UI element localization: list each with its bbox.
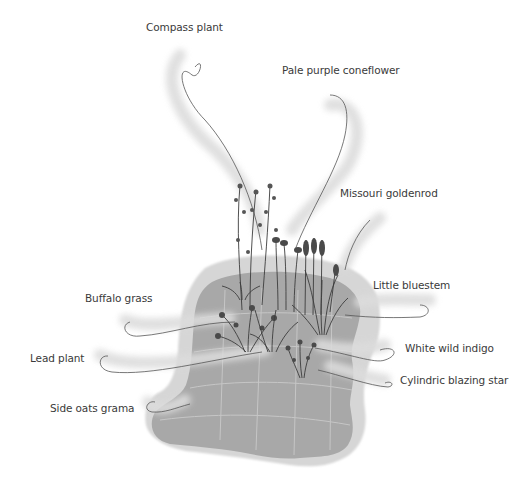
label-lead-plant: Lead plant bbox=[30, 352, 84, 364]
label-cylindric-blazing-star: Cylindric blazing star bbox=[400, 374, 508, 386]
prairie-garden-illustration: Compass plant Pale purple coneflower Mis… bbox=[0, 0, 524, 488]
label-buffalo-grass: Buffalo grass bbox=[85, 292, 152, 304]
label-missouri-goldenrod: Missouri goldenrod bbox=[340, 187, 438, 199]
label-pale-purple-coneflower: Pale purple coneflower bbox=[282, 64, 400, 76]
illustration-svg bbox=[0, 0, 524, 488]
label-compass-plant: Compass plant bbox=[146, 21, 223, 33]
label-little-bluestem: Little bluestem bbox=[373, 279, 450, 291]
leader-glows bbox=[100, 55, 430, 408]
label-side-oats-grama: Side oats grama bbox=[50, 402, 134, 414]
label-white-wild-indigo: White wild indigo bbox=[405, 342, 494, 354]
